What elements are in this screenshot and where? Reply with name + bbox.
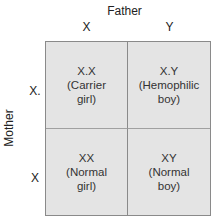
phenotype-line1: (Hemophilic [139, 78, 200, 92]
phenotype-line2: girl) [77, 179, 96, 193]
genotype: X.Y [160, 64, 179, 78]
father-allele-y: Y [128, 20, 211, 34]
phenotype-line1: (Carrier [67, 78, 106, 92]
phenotype-line2: girl) [77, 92, 96, 106]
cell-normal-girl: XX (Normal girl) [46, 129, 128, 216]
father-allele-x: X [45, 20, 128, 34]
genotype: XY [161, 151, 176, 165]
phenotype-line2: boy) [158, 179, 180, 193]
mother-label: Mother [2, 98, 18, 158]
mother-allele-x: X [28, 171, 42, 185]
cell-hemophilic-boy: X.Y (Hemophilic boy) [128, 42, 210, 129]
phenotype-line1: (Normal [149, 165, 190, 179]
mother-allele-carrier-x: X. [28, 84, 42, 98]
cell-carrier-girl: X.X (Carrier girl) [46, 42, 128, 129]
genotype: XX [79, 151, 94, 165]
punnett-square: X.X (Carrier girl) X.Y (Hemophilic boy) … [45, 41, 211, 216]
phenotype-line1: (Normal [66, 165, 107, 179]
cell-normal-boy: XY (Normal boy) [128, 129, 210, 216]
father-label: Father [0, 4, 219, 18]
phenotype-line2: boy) [158, 92, 180, 106]
genotype: X.X [77, 64, 96, 78]
